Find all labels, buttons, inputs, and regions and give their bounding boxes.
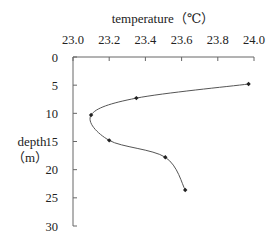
y-tick-label: 5 xyxy=(52,79,58,93)
y-tick-label: 30 xyxy=(46,220,59,234)
y-tick-label: 10 xyxy=(46,107,59,121)
x-tick-labels: 23.023.223.423.623.824.0 xyxy=(62,33,265,47)
y-tick-label: 0 xyxy=(52,51,58,65)
data-series xyxy=(89,82,251,192)
x-tick-label: 23.8 xyxy=(207,33,229,47)
y-axis-title-line2: （m） xyxy=(12,150,48,165)
data-point-marker xyxy=(107,138,111,142)
y-tick-label: 25 xyxy=(46,191,59,205)
y-tick-labels: 051015202530 xyxy=(46,51,59,234)
x-tick-label: 24.0 xyxy=(243,33,265,47)
data-point-marker xyxy=(134,96,138,100)
x-tick-label: 23.6 xyxy=(171,33,193,47)
y-axis-title-line1: depth xyxy=(18,134,47,149)
axes xyxy=(73,57,254,226)
y-tick-label: 20 xyxy=(46,163,59,177)
data-point-marker xyxy=(246,82,250,86)
x-tick-label: 23.2 xyxy=(98,33,120,47)
data-point-marker xyxy=(183,188,187,192)
x-tick-label: 23.0 xyxy=(62,33,84,47)
x-axis-title: temperature（℃） xyxy=(112,11,215,26)
temperature-depth-chart: temperature（℃） 23.023.223.423.623.824.0 … xyxy=(0,0,277,241)
y-tick-label: 15 xyxy=(46,135,59,149)
series-line xyxy=(90,84,249,190)
x-tick-label: 23.4 xyxy=(134,33,157,47)
